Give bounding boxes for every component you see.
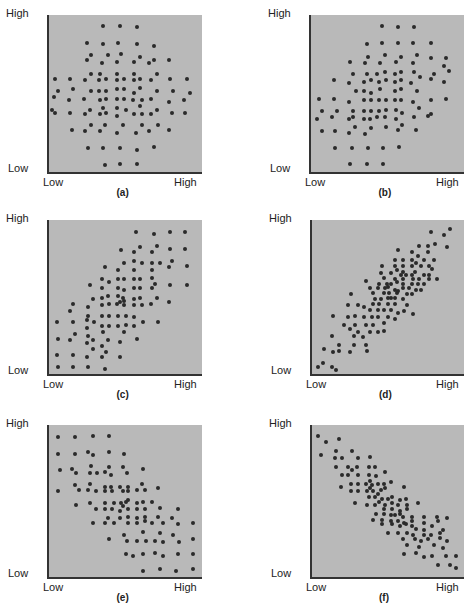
- data-point: [73, 332, 77, 336]
- data-point: [349, 292, 353, 296]
- data-point: [134, 230, 138, 234]
- data-point: [416, 282, 420, 286]
- data-point: [387, 291, 391, 295]
- data-point: [384, 125, 388, 129]
- data-point: [396, 289, 400, 293]
- x-axis-low-label: Low: [43, 581, 63, 593]
- data-point: [140, 123, 144, 127]
- data-point: [429, 98, 433, 102]
- data-point: [98, 112, 102, 116]
- data-point: [317, 97, 321, 101]
- data-point: [410, 515, 414, 519]
- data-point: [401, 286, 405, 290]
- data-point: [410, 524, 414, 528]
- data-point: [110, 489, 114, 493]
- data-point: [348, 60, 352, 64]
- data-point: [168, 247, 172, 251]
- data-point: [112, 501, 116, 505]
- data-point: [401, 297, 405, 301]
- data-point: [383, 70, 387, 74]
- data-point: [109, 473, 113, 477]
- data-point: [324, 440, 328, 444]
- data-point: [95, 471, 99, 475]
- data-point: [415, 89, 419, 93]
- data-point: [356, 489, 360, 493]
- data-point: [83, 129, 87, 133]
- data-point: [390, 501, 394, 505]
- data-point: [380, 24, 384, 28]
- data-point: [435, 515, 439, 519]
- data-point: [98, 72, 102, 76]
- data-point: [71, 353, 75, 357]
- data-point: [106, 338, 110, 342]
- data-point: [393, 89, 397, 93]
- data-point: [333, 456, 337, 460]
- data-point: [107, 302, 111, 306]
- data-point: [167, 100, 171, 104]
- data-point: [316, 365, 320, 369]
- data-point: [138, 245, 142, 249]
- data-point: [376, 330, 380, 334]
- data-point: [379, 297, 383, 301]
- x-axis-high-label: High: [174, 581, 197, 593]
- data-point: [404, 522, 408, 526]
- data-point: [321, 361, 325, 365]
- data-point: [147, 129, 151, 133]
- data-point: [380, 518, 384, 522]
- data-point: [73, 452, 77, 456]
- data-point: [393, 296, 397, 300]
- data-point: [316, 434, 320, 438]
- data-point: [71, 365, 75, 369]
- data-point: [371, 518, 375, 522]
- data-point: [340, 473, 344, 477]
- data-point: [177, 540, 181, 544]
- data-point: [386, 315, 390, 319]
- data-point: [401, 264, 405, 268]
- data-point: [445, 245, 449, 249]
- data-point: [352, 343, 356, 347]
- data-point: [374, 512, 378, 516]
- data-point: [161, 540, 165, 544]
- data-point: [158, 506, 162, 510]
- panel-caption: (b): [379, 187, 392, 198]
- data-point: [390, 495, 394, 499]
- data-point: [107, 434, 111, 438]
- y-axis-low-label: Low: [8, 162, 28, 174]
- data-point: [124, 314, 128, 318]
- data-point: [396, 248, 400, 252]
- data-point: [135, 148, 139, 152]
- data-point: [361, 335, 365, 339]
- data-point: [396, 25, 400, 29]
- data-point: [168, 283, 172, 287]
- data-point: [141, 569, 145, 573]
- data-point: [389, 513, 393, 517]
- data-point: [115, 72, 119, 76]
- data-point: [407, 286, 411, 290]
- data-point: [91, 521, 95, 525]
- data-point: [132, 72, 136, 76]
- data-point: [100, 355, 104, 359]
- data-point: [132, 91, 136, 95]
- data-point: [396, 531, 400, 535]
- data-point: [89, 89, 93, 93]
- data-point: [396, 519, 400, 523]
- data-point: [121, 504, 125, 508]
- data-point: [126, 521, 130, 525]
- data-point: [368, 286, 372, 290]
- data-point: [122, 277, 126, 281]
- data-point: [71, 87, 75, 91]
- x-axis-low-label: Low: [43, 378, 63, 390]
- data-point: [356, 456, 360, 460]
- data-point: [104, 350, 108, 354]
- data-point: [85, 318, 89, 322]
- data-point: [346, 465, 350, 469]
- data-point: [115, 114, 119, 118]
- data-point: [444, 56, 448, 60]
- data-point: [448, 563, 452, 567]
- data-point: [333, 146, 337, 150]
- data-point: [331, 350, 335, 354]
- data-point: [101, 146, 105, 150]
- data-point: [156, 515, 160, 519]
- data-point: [416, 501, 420, 505]
- data-point: [176, 507, 180, 511]
